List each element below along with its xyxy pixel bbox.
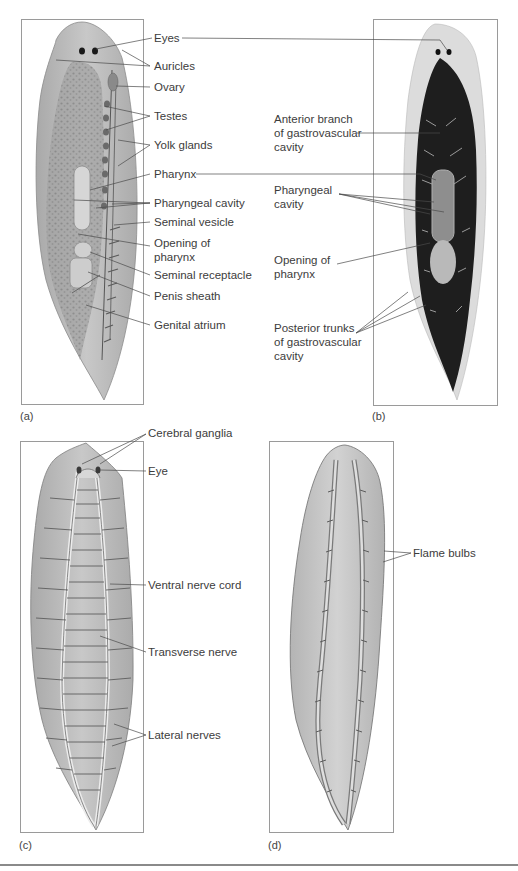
label-testes: Testes <box>154 109 187 123</box>
panel-c-worm <box>31 443 133 830</box>
panel-b-worm-photo <box>404 24 486 400</box>
panel-letter-a: (a) <box>20 410 33 422</box>
label-opening-of-pharynx-b: Opening of pharynx <box>274 253 330 281</box>
label-seminal-vesicle: Seminal vesicle <box>154 215 234 229</box>
label-pharyngeal-cavity-a: Pharyngeal cavity <box>154 196 245 210</box>
label-pharynx: Pharynx <box>154 167 196 181</box>
label-ovary: Ovary <box>154 80 185 94</box>
label-pharyngeal-cavity-b: Pharyngeal cavity <box>274 183 332 211</box>
panel-d-worm <box>290 445 384 830</box>
label-opening-of-pharynx-a: Opening of pharynx <box>154 236 210 264</box>
bottom-rule <box>0 864 518 866</box>
label-lateral-nerves: Lateral nerves <box>148 728 221 742</box>
panel-letter-c: (c) <box>19 839 32 851</box>
label-penis-sheath: Penis sheath <box>154 289 221 303</box>
label-eyes: Eyes <box>154 31 180 45</box>
label-cerebral-ganglia: Cerebral ganglia <box>148 426 232 440</box>
panel-letter-b: (b) <box>372 410 385 422</box>
figure-artwork <box>0 0 518 871</box>
label-eye: Eye <box>148 464 168 478</box>
label-genital-atrium: Genital atrium <box>154 318 226 332</box>
label-ventral-nerve-cord: Ventral nerve cord <box>148 578 241 592</box>
label-seminal-receptacle: Seminal receptacle <box>154 268 252 282</box>
label-transverse-nerve: Transverse nerve <box>148 645 237 659</box>
label-auricles: Auricles <box>154 59 195 73</box>
panel-a-worm <box>36 22 137 400</box>
label-anterior-branch: Anterior branch of gastrovascular cavity <box>274 112 362 154</box>
panel-letter-d: (d) <box>268 839 281 851</box>
label-flame-bulbs: Flame bulbs <box>413 546 476 560</box>
label-posterior-trunks: Posterior trunks of gastrovascular cavit… <box>274 321 362 363</box>
label-yolk-glands: Yolk glands <box>154 138 212 152</box>
